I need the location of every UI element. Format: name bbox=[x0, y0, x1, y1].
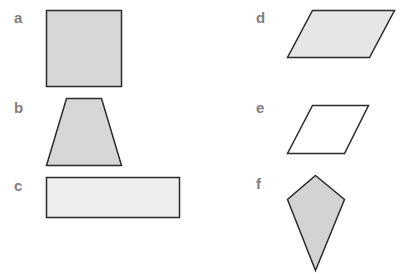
shape-f-kite bbox=[288, 176, 345, 271]
shape-b-trapezoid bbox=[47, 99, 122, 166]
shape-c-rectangle bbox=[47, 178, 180, 218]
shape-e-rhombus bbox=[288, 106, 369, 154]
shape-d-parallelogram bbox=[288, 11, 395, 58]
shape-a-square bbox=[47, 11, 122, 87]
shapes-svg bbox=[0, 0, 401, 278]
shapes-diagram: a b c d e f bbox=[0, 0, 401, 278]
